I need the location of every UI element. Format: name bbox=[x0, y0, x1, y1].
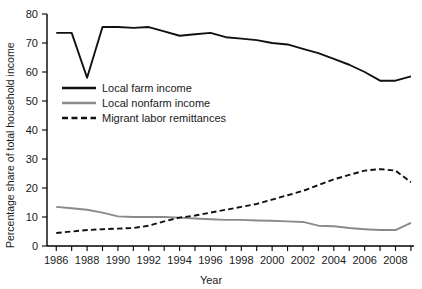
x-axis-tick-labels: 1986198819901992199419961998200020022004… bbox=[44, 254, 408, 266]
x-axis-tick-label: 1996 bbox=[198, 254, 222, 266]
x-axis-tick-label: 2006 bbox=[352, 254, 376, 266]
x-axis-tick-label: 1992 bbox=[137, 254, 161, 266]
series-line-migrant-labor-remittances bbox=[56, 169, 411, 233]
x-axis-tick-label: 1986 bbox=[44, 254, 68, 266]
line-chart: Percentage share of total household inco… bbox=[0, 0, 422, 289]
y-axis-tick-labels: 01020304050607080 bbox=[26, 8, 38, 252]
x-axis-tick-label: 1990 bbox=[106, 254, 130, 266]
y-axis-tick-label: 10 bbox=[26, 211, 38, 223]
x-axis-tick-label: 1998 bbox=[229, 254, 253, 266]
legend-label-migrant-labor-remittances: Migrant labor remittances bbox=[102, 112, 227, 124]
series-lines bbox=[56, 27, 411, 233]
series-line-local-farm-income bbox=[56, 27, 411, 81]
x-axis-ticks bbox=[56, 246, 411, 251]
legend: Local farm income Local nonfarm income M… bbox=[62, 82, 227, 124]
series-line-local-nonfarm-income bbox=[56, 207, 411, 230]
legend-item-local-nonfarm-income: Local nonfarm income bbox=[62, 97, 210, 109]
x-axis-tick-label: 2004 bbox=[322, 254, 346, 266]
y-axis-ticks bbox=[42, 14, 47, 246]
y-axis-title: Percentage share of total household inco… bbox=[4, 42, 16, 248]
y-axis-tick-label: 50 bbox=[26, 95, 38, 107]
x-axis-tick-label: 2002 bbox=[291, 254, 315, 266]
x-axis-tick-label: 1988 bbox=[75, 254, 99, 266]
y-axis-tick-label: 20 bbox=[26, 182, 38, 194]
y-axis-tick-label: 60 bbox=[26, 66, 38, 78]
y-axis-tick-label: 80 bbox=[26, 8, 38, 20]
x-axis-tick-label: 2000 bbox=[260, 254, 284, 266]
axes bbox=[42, 14, 414, 251]
legend-label-local-farm-income: Local farm income bbox=[102, 82, 192, 94]
x-axis-tick-label: 1994 bbox=[167, 254, 191, 266]
y-axis-tick-label: 70 bbox=[26, 37, 38, 49]
x-axis-tick-label: 2008 bbox=[383, 254, 407, 266]
y-axis-tick-label: 30 bbox=[26, 153, 38, 165]
legend-item-local-farm-income: Local farm income bbox=[62, 82, 192, 94]
legend-item-migrant-labor-remittances: Migrant labor remittances bbox=[62, 112, 227, 124]
chart-container: Percentage share of total household inco… bbox=[0, 0, 422, 289]
legend-label-local-nonfarm-income: Local nonfarm income bbox=[102, 97, 210, 109]
y-axis-tick-label: 40 bbox=[26, 124, 38, 136]
x-axis-title-label: Year bbox=[200, 274, 223, 286]
y-axis-tick-label: 0 bbox=[32, 240, 38, 252]
y-axis-title-label: Percentage share of total household inco… bbox=[4, 42, 16, 248]
